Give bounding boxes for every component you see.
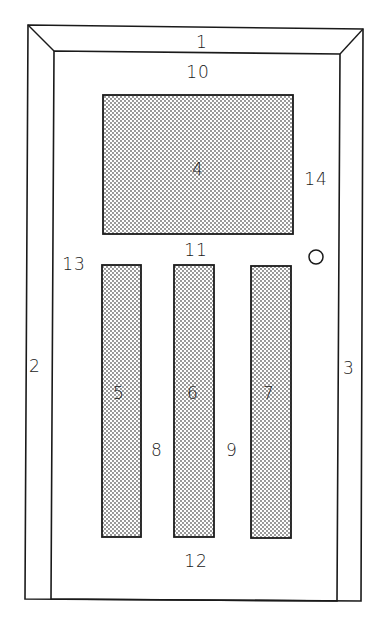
label-8: 8 bbox=[151, 442, 163, 459]
label-4: 4 bbox=[192, 161, 204, 178]
label-10: 10 bbox=[186, 64, 210, 81]
label-11: 11 bbox=[184, 242, 208, 259]
label-2: 2 bbox=[29, 358, 41, 375]
label-6: 6 bbox=[187, 385, 199, 402]
label-9: 9 bbox=[226, 442, 238, 459]
door-knob-icon bbox=[309, 250, 323, 264]
label-14: 14 bbox=[304, 171, 328, 188]
label-3: 3 bbox=[343, 360, 355, 377]
label-1: 1 bbox=[196, 34, 208, 51]
label-12: 12 bbox=[184, 553, 208, 570]
label-7: 7 bbox=[263, 385, 275, 402]
door-diagram bbox=[0, 0, 384, 630]
mitre-left bbox=[28, 25, 54, 51]
label-13: 13 bbox=[62, 256, 86, 273]
mitre-right bbox=[340, 29, 363, 54]
label-5: 5 bbox=[113, 385, 125, 402]
